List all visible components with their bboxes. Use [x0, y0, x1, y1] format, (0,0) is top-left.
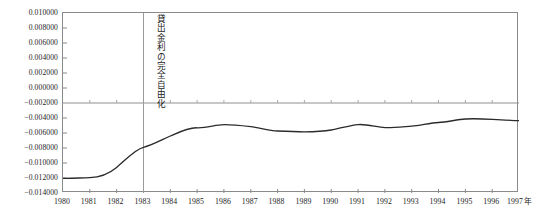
x-tick-label: 1983	[135, 196, 151, 207]
x-tick-label: 1994	[430, 196, 446, 207]
x-axis-unit-label: 年	[524, 196, 532, 207]
plot-area	[62, 12, 518, 192]
y-tick-label: −0.012000	[0, 173, 58, 182]
plot-canvas	[63, 13, 519, 193]
x-tick-label: 1987	[242, 196, 258, 207]
x-tick-label: 1991	[349, 196, 365, 207]
y-tick-label: −0.010000	[0, 158, 58, 167]
event-annotation-label: 貸出金利の完全自由化	[152, 14, 165, 108]
x-tick-label: 1980	[54, 196, 70, 207]
y-tick-label: 0.004000	[0, 53, 58, 62]
x-tick-label: 1981	[81, 196, 97, 207]
x-tick-label: 1995	[456, 196, 472, 207]
x-tick-label: 1988	[269, 196, 285, 207]
y-tick-label: −0.008000	[0, 143, 58, 152]
chart-screenshot: 0.010000 0.008000 0.006000 0.004000 0.00…	[0, 0, 541, 218]
x-tick-label: 1992	[376, 196, 392, 207]
y-tick-label: 0.002000	[0, 68, 58, 77]
x-tick-label: 1984	[161, 196, 177, 207]
y-tick-label: 0.010000	[0, 8, 58, 17]
x-tick-label: 1982	[108, 196, 124, 207]
y-axis: 0.010000 0.008000 0.006000 0.004000 0.00…	[0, 0, 58, 218]
y-tick-label: −0.006000	[0, 128, 58, 137]
x-tick-label: 1989	[295, 196, 311, 207]
x-tick-label: 1997	[507, 196, 523, 207]
y-tick-label: 0.008000	[0, 23, 58, 32]
x-axis: 1980 1981 1982 1983 1984 1985 1986 1987 …	[0, 196, 541, 210]
data-line-series-1	[63, 119, 519, 179]
x-tick-marks	[90, 189, 492, 193]
x-tick-label: 1990	[322, 196, 338, 207]
y-tick-label: 0.006000	[0, 38, 58, 47]
y-tick-label: 0.000000	[0, 83, 58, 92]
x-tick-label: 1993	[403, 196, 419, 207]
y-tick-label: −0.002000	[0, 98, 58, 107]
x-tick-label: 1986	[215, 196, 231, 207]
x-tick-label: 1996	[483, 196, 499, 207]
y-tick-label: −0.004000	[0, 113, 58, 122]
x-tick-label: 1985	[188, 196, 204, 207]
